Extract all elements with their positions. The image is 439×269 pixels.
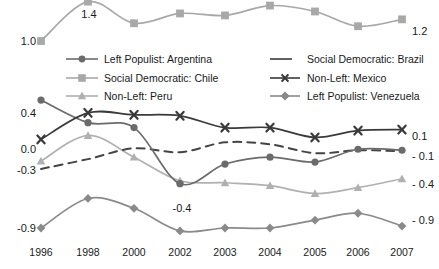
legend-label-mexico: Non-Left: Mexico [307, 72, 387, 84]
data-point-left-populist-argentina-1996 [37, 96, 44, 103]
x-tick-2005: 2005 [303, 246, 327, 258]
x-tick-2000: 2000 [122, 246, 146, 258]
left-value-label-4: -0.3 [17, 164, 36, 176]
x-tick-1996: 1996 [29, 246, 53, 258]
circle-marker-icon [79, 56, 86, 63]
line-chart: 1.0 0.4 0.0 -0.3 -0.9 1.2 0.1 - 0.1 - 0.… [0, 0, 439, 269]
data-point-social-democratic-chile-2006 [354, 22, 362, 30]
square-marker-icon [78, 74, 86, 82]
data-point-social-democratic-chile-1998 [84, 0, 92, 6]
data-point-social-democratic-chile-1996 [37, 37, 45, 45]
annotation-trough-argentina: -0.4 [173, 202, 192, 214]
data-point-left-populist-argentina-2007 [398, 147, 405, 154]
legend-label-peru: Non-Left: Peru [104, 90, 172, 102]
data-point-social-democratic-chile-2007 [398, 15, 406, 23]
left-value-label-3: 0.0 [21, 143, 36, 155]
left-value-label-2: 0.4 [21, 107, 36, 119]
x-tick-2003: 2003 [213, 246, 237, 258]
data-point-social-democratic-chile-2003 [221, 12, 229, 20]
data-point-left-populist-argentina-2004 [266, 154, 273, 161]
x-tick-2006: 2006 [346, 246, 370, 258]
legend-label-argentina: Left Populist: Argentina [104, 53, 212, 65]
data-point-left-populist-argentina-2003 [221, 160, 228, 167]
x-tick-2007: 2007 [390, 246, 414, 258]
right-value-label-3: - 0.1 [412, 150, 434, 162]
data-point-social-democratic-chile-2004 [266, 2, 274, 10]
left-value-label-5: -0.9 [17, 222, 36, 234]
right-value-label-1: 1.2 [412, 25, 427, 37]
data-point-left-populist-argentina-2006 [354, 146, 361, 153]
legend-label-brazil: Social Democratic: Brazil [307, 53, 424, 65]
data-point-social-democratic-chile-2002 [176, 10, 184, 18]
left-value-label-1: 1.0 [21, 35, 36, 47]
legend-label-venezuela: Left Populist: Venezuela [307, 90, 420, 102]
data-point-left-populist-argentina-1998 [84, 119, 91, 126]
annotation-peak-chile: 1.4 [81, 8, 96, 20]
right-value-label-4: - 0.4 [412, 178, 434, 190]
data-point-social-democratic-chile-2005 [311, 8, 319, 16]
data-point-left-populist-argentina-2000 [130, 124, 137, 131]
x-tick-1998: 1998 [76, 246, 100, 258]
legend-label-chile: Social Democratic: Chile [104, 72, 219, 84]
chart-canvas: 1.0 0.4 0.0 -0.3 -0.9 1.2 0.1 - 0.1 - 0.… [0, 0, 439, 269]
data-point-social-democratic-chile-2000 [130, 19, 138, 27]
right-value-label-5: - 0.9 [412, 214, 434, 226]
right-value-label-2: 0.1 [412, 130, 427, 142]
data-point-left-populist-argentina-2005 [311, 158, 318, 165]
data-point-left-populist-argentina-2002 [176, 180, 183, 187]
x-tick-2004: 2004 [258, 246, 282, 258]
x-tick-2002: 2002 [168, 246, 192, 258]
